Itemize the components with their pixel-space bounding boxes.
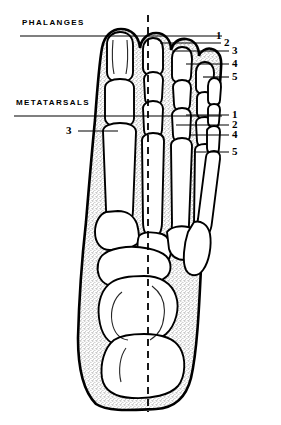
bone-middle-phalanx-3: [173, 80, 191, 111]
section-label-metatarsals: METATARSALS: [16, 98, 90, 107]
bone-distal-phalanx-1: [107, 32, 133, 82]
phalanx-number-5: 5: [232, 70, 238, 82]
bone-distal-phalanx-5: [208, 78, 221, 105]
bone-medial-cuneiform: [95, 211, 139, 250]
metatarsal-number-4: 4: [232, 128, 238, 140]
bone-metatarsal-2: [142, 133, 164, 237]
section-label-phalanges: PHALANGES: [22, 18, 85, 27]
bone-middle-phalanx-2: [144, 72, 163, 105]
bone-group: [95, 32, 221, 398]
metatarsal-number-5: 5: [232, 145, 238, 157]
phalanx-number-1: 1: [216, 29, 222, 41]
bone-metatarsal-3: [171, 138, 192, 239]
bone-distal-phalanx-2: [143, 38, 163, 76]
phalanx-number-2: 2: [224, 36, 230, 48]
bone-distal-phalanx-3: [172, 47, 192, 83]
bone-proximal-phalanx-5: [207, 126, 220, 154]
metatarsal-number-3: 3: [66, 124, 72, 136]
bone-proximal-phalanx-1: [105, 79, 134, 127]
foot-bones-figure: PHALANGES METATARSALS 1 2 3 4 5 1 2 4 5 …: [0, 0, 281, 425]
phalanx-number-4: 4: [232, 57, 238, 69]
foot-anatomy-illustration: [0, 0, 281, 425]
phalanx-number-3: 3: [232, 44, 238, 56]
bone-calcaneus: [102, 334, 185, 398]
bone-proximal-phalanx-2: [143, 101, 163, 137]
